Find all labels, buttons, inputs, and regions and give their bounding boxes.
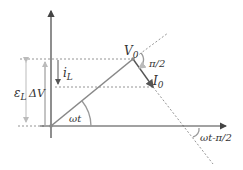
- phasor-diagram: V0 I0 π/2 ωt ωt-π/2 iL εL ΔV: [0, 0, 243, 170]
- pi-over-2-arc: [139, 53, 144, 68]
- epsilon-l-label: εL: [14, 86, 26, 102]
- omega-t-minus-pi2-label: ωt-π/2: [200, 132, 232, 143]
- pi-over-2-label: π/2: [148, 58, 165, 69]
- i-l-label: iL: [63, 66, 73, 82]
- v0-label: V0: [124, 44, 139, 60]
- omega-t-minus-arc: [193, 128, 199, 137]
- delta-v-label: ΔV: [28, 87, 46, 100]
- origin-dot: [49, 124, 53, 128]
- omega-t-label: ωt: [69, 113, 82, 124]
- i0-label: I0: [152, 74, 164, 90]
- omega-t-arc: [82, 101, 91, 126]
- guide-lines: [18, 33, 213, 164]
